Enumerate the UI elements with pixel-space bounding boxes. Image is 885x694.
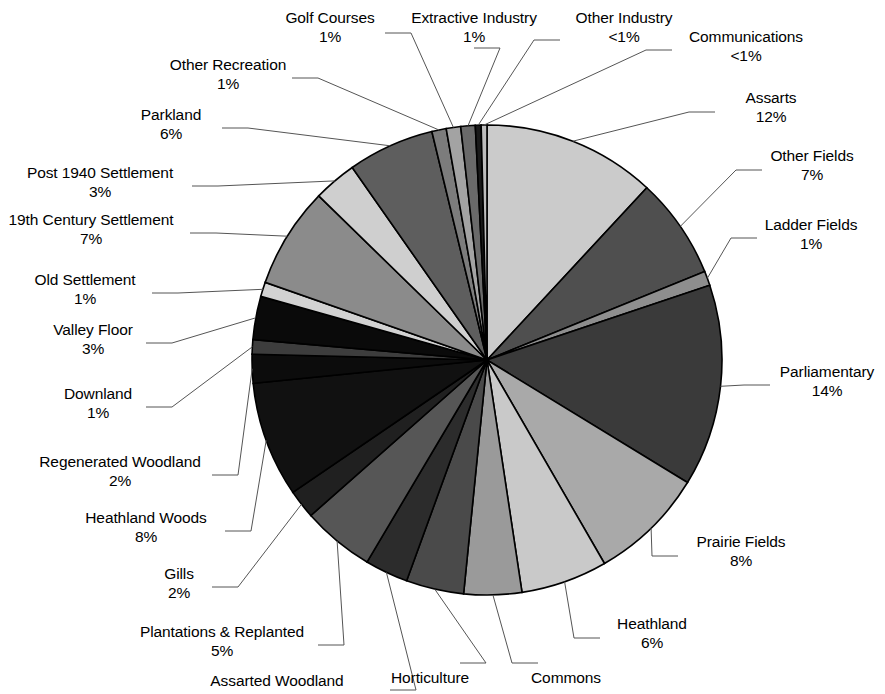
pie-label-percent: 2% [39,471,200,490]
pie-label-name: Other Recreation [170,55,286,74]
pie-label-percent: 6% [617,633,687,652]
pie-label-name: Communications [689,27,803,46]
pie-label-name: Heathland Woods [85,508,206,527]
pie-label-percent: 7% [770,165,853,184]
pie-label-19th-century-settlement: 19th Century Settlement 7% [9,210,174,248]
pie-label-percent: 2% [164,583,194,602]
pie-label-percent: <1% [689,46,803,65]
pie-label-assarted-woodland: Assarted Woodland [210,671,343,690]
leader-line [435,589,486,663]
leader-line [225,440,266,531]
pie-label-name: Golf Courses [285,8,374,27]
leader-line [468,48,500,126]
pie-label-percent: 1% [64,403,132,422]
pie-label-golf-courses: Golf Courses 1% [285,8,374,46]
pie-slices-group [252,125,722,595]
pie-label-name: Extractive Industry [411,8,537,27]
pie-label-name: Commons [531,668,601,687]
pie-label-name: Regenerated Woodland [39,452,200,471]
pie-label-percent: 8% [85,527,206,546]
pie-label-gills: Gills 2% [164,564,194,602]
leader-line [192,181,335,186]
pie-label-name: Post 1940 Settlement [27,163,173,182]
pie-label-old-settlement: Old Settlement 1% [34,270,135,308]
pie-label-percent: 14% [780,381,874,400]
leader-line [152,289,263,293]
pie-label-percent: 5% [140,641,304,660]
leader-line [651,528,678,556]
pie-label-name: Heathland [617,614,687,633]
pie-label-plantations-replanted: Plantations & Replanted 5% [140,622,304,660]
pie-label-name: Plantations & Replanted [140,622,304,641]
pie-label-communications: Communications <1% [689,27,803,65]
pie-label-percent: <1% [576,27,673,46]
pie-label-percent: 7% [9,229,174,248]
pie-label-percent: 3% [27,182,173,201]
pie-label-percent: 8% [696,551,785,570]
pie-label-parliamentary: Parliamentary 14% [780,362,874,400]
pie-label-assarts: Assarts 12% [746,88,797,126]
pie-label-heathland: Heathland 6% [617,614,687,652]
leader-line [146,318,256,343]
pie-label-heathland-woods: Heathland Woods 8% [85,508,206,546]
leader-line [318,541,344,645]
pie-label-percent: 1% [170,74,286,93]
pie-label-horticulture: Horticulture [391,668,469,687]
pie-label-parkland: Parkland 6% [141,105,201,143]
leader-line [146,347,252,407]
pie-label-percent: 1% [34,289,135,308]
pie-label-percent: 3% [53,339,133,358]
pie-label-name: Horticulture [391,668,469,687]
leader-line [680,170,762,226]
pie-label-regenerated-woodland: Regenerated Woodland 2% [39,452,200,490]
pie-label-percent: 1% [411,27,537,46]
pie-label-name: Valley Floor [53,320,133,339]
pie-label-other-fields: Other Fields 7% [770,146,853,184]
leader-line [478,40,560,125]
leader-line [212,504,302,587]
leader-line [212,369,252,475]
leader-line [385,33,453,127]
pie-label-name: Old Settlement [34,270,135,289]
pie-label-other-recreation: Other Recreation 1% [170,55,286,93]
pie-label-percent: 1% [285,27,374,46]
leader-line [721,385,771,386]
leader-line [222,128,390,146]
pie-label-valley-floor: Valley Floor 3% [53,320,133,358]
pie-label-ladder-fields: Ladder Fields 1% [765,215,858,253]
leader-line [493,595,538,663]
leader-line [292,78,439,130]
leader-line [707,238,757,278]
leader-line [573,112,715,141]
pie-label-downland: Downland 1% [64,384,132,422]
pie-label-percent: 6% [141,124,201,143]
pie-label-prairie-fields: Prairie Fields 8% [696,532,785,570]
pie-label-name: Other Fields [770,146,853,165]
pie-label-name: Assarts [746,88,797,107]
leader-line [190,233,287,236]
pie-label-name: 19th Century Settlement [9,210,174,229]
pie-label-name: Parkland [141,105,201,124]
pie-label-name: Prairie Fields [696,532,785,551]
pie-label-percent: 12% [746,107,797,126]
pie-label-percent: 1% [765,234,858,253]
leader-line [484,50,672,125]
pie-label-name: Parliamentary [780,362,874,381]
pie-chart-figure: Golf Courses 1% Extractive Industry 1% O… [0,0,885,694]
pie-label-commons: Commons [531,668,601,687]
pie-label-name: Other Industry [576,8,673,27]
leader-line [565,582,600,638]
pie-label-name: Ladder Fields [765,215,858,234]
pie-label-name: Downland [64,384,132,403]
pie-label-name: Assarted Woodland [210,671,343,690]
pie-label-post-1940-settlement: Post 1940 Settlement 3% [27,163,173,201]
pie-label-extractive-industry: Extractive Industry 1% [411,8,537,46]
pie-label-name: Gills [164,564,194,583]
pie-label-other-industry: Other Industry <1% [576,8,673,46]
